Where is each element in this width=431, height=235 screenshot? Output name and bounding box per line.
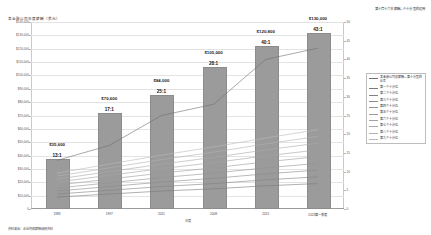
- y-axis-tick-label: $50,000: [18, 140, 29, 144]
- chart-page: 第十章十六节薪酬—个十分型的运用 某金融公司年度薪酬（美元） 0$10,000$…: [0, 0, 431, 235]
- y-axis-tick-label: $80,000: [18, 100, 29, 104]
- y2-axis-tick-label: 0: [347, 207, 349, 211]
- y2-axis-tick-mark: [344, 172, 346, 173]
- legend-item-label: 第一个十分位: [380, 86, 398, 90]
- y2-axis-tick-mark: [344, 59, 346, 60]
- legend-line-swatch: [369, 95, 378, 96]
- y2-axis-tick-mark: [344, 78, 346, 79]
- legend-line-swatch: [369, 107, 378, 108]
- y-axis-tick-label: $70,000: [18, 114, 29, 118]
- bar-value-label: $120,800: [257, 29, 275, 34]
- y-axis-tick-label: $90,000: [18, 87, 29, 91]
- y-axis-tick-label: $60,000: [18, 127, 29, 131]
- legend-item-label: 第三个十分位: [380, 99, 398, 103]
- legend-line-swatch: [369, 78, 378, 79]
- legend-item[interactable]: 第六个十分位: [369, 118, 423, 122]
- y-axis-tick-label: $40,000: [18, 154, 29, 158]
- legend-item[interactable]: 第一个十分位: [369, 86, 423, 90]
- y2-axis-tick-mark: [344, 97, 346, 98]
- legend-item[interactable]: 第八个十分位: [369, 131, 423, 135]
- plot-area: 0$10,000$20,000$30,000$40,000$50,000$60,…: [31, 22, 344, 209]
- y2-axis-tick-mark: [344, 22, 346, 23]
- bar-ratio-label: 25:1: [157, 89, 166, 94]
- x-axis-tick-label: 2015: [262, 212, 269, 216]
- legend-line-swatch: [369, 133, 378, 134]
- bar-ratio-label: 43:1: [313, 27, 322, 32]
- y2-axis-tick-label: 35: [347, 76, 350, 80]
- x-axis-tick-label: 2023第一季度: [308, 212, 327, 217]
- y2-axis-tick-mark: [344, 190, 346, 191]
- line-series-path: [57, 150, 318, 182]
- bar-value-label: $84,000: [153, 78, 169, 83]
- legend-item[interactable]: 某金融公司总薪酬—第十分型的比率: [369, 76, 423, 84]
- bar-value-label: $35,600: [49, 142, 65, 147]
- line-series-path: [57, 143, 318, 179]
- y-axis-tick-label: $140,000: [16, 20, 29, 24]
- legend-item[interactable]: 第五个十分位: [369, 111, 423, 115]
- legend-item-label: 第二个十分位: [380, 92, 398, 96]
- legend-item-label: 某金融公司总薪酬—第十分型的比率: [380, 76, 424, 84]
- y2-axis-tick-label: 10: [347, 170, 350, 174]
- x-axis-tick-label: 2008: [210, 212, 217, 216]
- y-axis-tick-mark: [29, 209, 31, 210]
- legend-item-label: 第四个十分位: [380, 105, 398, 109]
- y-axis-tick-label: $100,000: [16, 73, 29, 77]
- bar-ratio-label: 28:1: [209, 61, 218, 66]
- y2-axis-tick-mark: [344, 209, 346, 210]
- legend-line-swatch: [369, 101, 378, 102]
- bar-ratio-label: 17:1: [105, 107, 114, 112]
- legend-item-label: 第五个十分位: [380, 111, 398, 115]
- legend-item[interactable]: 第七个十分位: [369, 124, 423, 128]
- y2-axis-tick-mark: [344, 153, 346, 154]
- y2-axis-tick-mark: [344, 134, 346, 135]
- chart-legend: 某金融公司总薪酬—第十分型的比率第一个十分位第二个十分位第三个十分位第四个十分位…: [366, 73, 426, 144]
- legend-item-label: 第八个十分位: [380, 131, 398, 135]
- y2-axis-tick-label: 15: [347, 151, 350, 155]
- bar-ratio-label: 13:1: [52, 153, 61, 158]
- line-series-path: [57, 163, 318, 188]
- y2-axis-tick-label: 30: [347, 95, 350, 99]
- legend-item-label: 第九个十分位: [380, 137, 398, 141]
- line-series-path: [57, 184, 318, 197]
- legend-line-swatch: [369, 126, 378, 127]
- page-header-right: 第十章十六节薪酬—个十分型的运用: [375, 6, 425, 11]
- y2-axis-tick-label: 25: [347, 114, 350, 118]
- footer-note: 资料来源：企业内部薪酬调研资料: [8, 226, 53, 231]
- y2-axis-tick-label: 20: [347, 132, 350, 136]
- legend-line-swatch: [369, 88, 378, 89]
- y-axis-tick-label: $110,000: [16, 60, 29, 64]
- y-axis-tick-label: $10,000: [18, 194, 29, 198]
- legend-item[interactable]: 第四个十分位: [369, 105, 423, 109]
- y2-axis-tick-label: 5: [347, 188, 349, 192]
- bar-value-label: $130,000: [309, 16, 327, 21]
- y2-axis-tick-label: 45: [347, 39, 350, 43]
- x-axis-tick-label: 1983: [54, 212, 61, 216]
- y2-axis-tick-mark: [344, 116, 346, 117]
- y2-axis-tick-label: 50: [347, 20, 350, 24]
- legend-line-swatch: [369, 120, 378, 121]
- legend-line-swatch: [369, 139, 378, 140]
- bar-value-label: $70,600: [101, 96, 117, 101]
- line-series-path: [57, 136, 318, 176]
- legend-item-label: 第七个十分位: [380, 124, 398, 128]
- line-series-path: [57, 48, 318, 160]
- legend-line-swatch: [369, 114, 378, 115]
- x-axis-tick-label: 1997: [106, 212, 113, 216]
- y-axis-tick-label: $20,000: [18, 180, 29, 184]
- y2-axis-tick-mark: [344, 41, 346, 42]
- x-axis-tick-label: 2011: [158, 212, 165, 216]
- bar-ratio-label: 40:1: [261, 40, 270, 45]
- legend-item[interactable]: 第二个十分位: [369, 92, 423, 96]
- legend-item[interactable]: 第九个十分位: [369, 137, 423, 141]
- legend-item[interactable]: 第三个十分位: [369, 99, 423, 103]
- x-axis-title: 年度: [185, 218, 191, 223]
- y-axis-tick-label: $120,000: [16, 47, 29, 51]
- legend-item-label: 第六个十分位: [380, 118, 398, 122]
- line-series: [31, 22, 344, 209]
- y2-axis-tick-label: 40: [347, 57, 350, 61]
- bar-value-label: $105,000: [204, 50, 222, 55]
- y-axis-tick-label: $30,000: [18, 167, 29, 171]
- y-axis-tick-label: $130,000: [16, 33, 29, 37]
